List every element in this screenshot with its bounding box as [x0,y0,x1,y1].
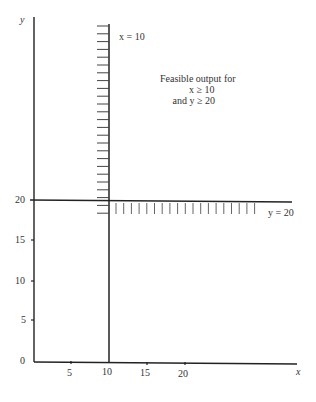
hatching-x10 [97,26,109,213]
annotation-line-3: and y ≥ 20 [160,95,236,106]
x-tick-5: 5 [67,367,72,378]
diagram-canvas [0,0,316,402]
x-tick-20: 20 [178,368,188,379]
y-axis-label: y [20,14,24,25]
y-tick-10: 10 [15,275,25,286]
constraint-line-y20 [30,200,292,202]
x-axis-label: x [296,366,300,377]
y-tick-5: 5 [21,314,26,325]
feasible-region-diagram: y x 20 15 10 5 0 5 10 15 20 x = 10 y = 2… [0,0,316,402]
annotation-line-2: x ≥ 10 [160,84,236,95]
label-x10: x = 10 [119,31,145,42]
y-tick-20: 20 [15,194,25,205]
x-tick-10: 10 [102,366,112,377]
y-tick-0: 0 [20,355,25,366]
x-tick-15: 15 [140,367,150,378]
hatching-y20 [116,203,255,214]
y-tick-15: 15 [15,234,25,245]
annotation-line-1: Feasible output for [160,73,236,84]
feasible-region-annotation: Feasible output for x ≥ 10 and y ≥ 20 [160,73,236,106]
label-y20: y = 20 [268,207,294,218]
x-axis [34,362,297,364]
